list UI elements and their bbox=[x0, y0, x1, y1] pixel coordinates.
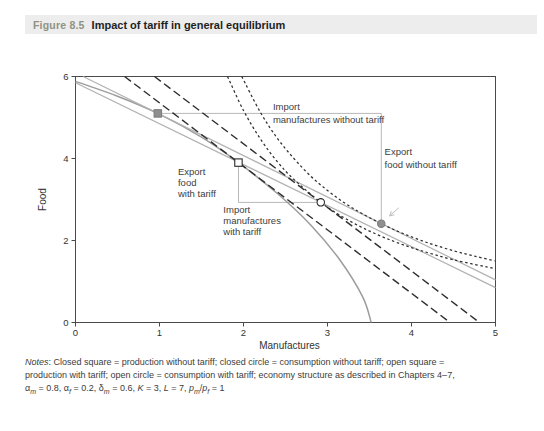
indifference-curve-with-tariff bbox=[228, 77, 496, 269]
import-without-tariff-label-2: manufactures without tariff bbox=[273, 114, 385, 125]
notes-line: Notes: Closed square = production withou… bbox=[25, 356, 525, 369]
x-axis-tick-label: 4 bbox=[409, 327, 414, 338]
export-food-with-tariff-label-3: with tariff bbox=[177, 188, 216, 199]
export-food-with-tariff-label-2: food bbox=[178, 177, 197, 188]
export-food-without-tariff-label-1: Export bbox=[385, 146, 413, 157]
export-food-without-tariff-label-2: food without tariff bbox=[385, 159, 458, 170]
export-food-with-tariff-label-1: Export bbox=[178, 166, 206, 177]
notes-line: αm = 0.8, αf = 0.2, δm = 0.6, K = 3, L =… bbox=[25, 382, 525, 398]
notes-line: production with tariff; open circle = co… bbox=[25, 369, 525, 382]
production-with-tariff-marker bbox=[235, 159, 242, 166]
x-axis-label: Manufactures bbox=[259, 340, 320, 351]
consumption-without-tariff-marker bbox=[378, 220, 385, 227]
x-axis-tick-label: 5 bbox=[493, 327, 498, 338]
consumption-with-tariff-marker bbox=[317, 199, 324, 206]
production-without-tariff-marker bbox=[154, 110, 161, 117]
import-with-tariff-label-1: Import bbox=[223, 204, 250, 215]
y-axis-tick-label: 4 bbox=[63, 153, 68, 164]
chart-canvas: 0123450246ManufacturesFoodImportmanufact… bbox=[0, 0, 544, 356]
x-axis-tick-label: 0 bbox=[73, 327, 78, 338]
figure-notes: Notes: Closed square = production withou… bbox=[25, 356, 525, 398]
import-without-tariff-label-1: Import bbox=[273, 101, 300, 112]
x-axis-tick-label: 3 bbox=[325, 327, 330, 338]
y-axis-tick-label: 0 bbox=[63, 317, 68, 328]
x-axis-tick-label: 1 bbox=[157, 327, 162, 338]
y-axis-tick-label: 6 bbox=[63, 71, 68, 82]
import-with-tariff-label-3: with tariff bbox=[222, 226, 261, 237]
page: Figure 8.5 Impact of tariff in general e… bbox=[0, 0, 544, 431]
y-axis-label: Food bbox=[37, 188, 48, 211]
x-axis-tick-label: 2 bbox=[241, 327, 246, 338]
y-axis-tick-label: 2 bbox=[63, 235, 68, 246]
import-with-tariff-label-2: manufactures bbox=[223, 215, 281, 226]
